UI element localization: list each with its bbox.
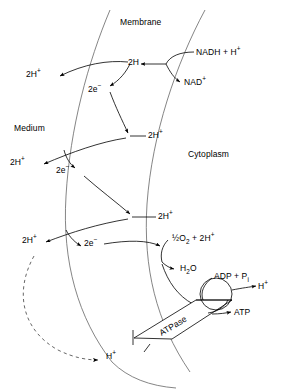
loop1-carrier-to-electrons <box>110 64 130 86</box>
water-product-label: H2O <box>180 264 197 273</box>
loop3-carrier-label: 2H+ <box>158 212 173 221</box>
oxygen-acceptor-label: ½O2 + 2H+ <box>172 234 214 243</box>
nadh-donor-label: NADH + H+ <box>196 48 241 57</box>
adp-inflow-arc <box>202 278 212 300</box>
loop1-carrier-to-protons <box>60 62 128 76</box>
loop2-carrier-to-protons <box>44 138 126 164</box>
proton-return-path <box>23 256 98 360</box>
membrane-tail-curve <box>112 362 176 388</box>
dashed-proton-circuit <box>23 256 98 360</box>
chemiosmosis-diagram: Membrane Medium Cytoplasm 2H 2H+ 2e− NAD… <box>0 0 283 391</box>
label-membrane: Membrane <box>120 18 161 27</box>
atpase-proton-out-label: H+ <box>258 282 268 291</box>
oxygen-branch <box>161 240 168 262</box>
loop-1-group <box>60 52 194 133</box>
loop1-electrons-label: 2e− <box>88 85 102 94</box>
arrow-to-atp <box>212 312 231 314</box>
nad-product-label: NAD+ <box>184 78 206 87</box>
loop2-electron-transfer <box>84 176 130 214</box>
loop3-protons-out-label: 2H+ <box>22 236 37 245</box>
loop2-protons-out-label: 2H+ <box>10 158 25 167</box>
loop3-electron-to-oxygen <box>104 241 160 246</box>
atp-product-label: ATP <box>234 308 250 317</box>
membrane-outer-curve <box>65 10 112 362</box>
label-medium: Medium <box>14 124 45 133</box>
loop1-to-nad <box>166 64 180 82</box>
loop1-electron-transfer <box>110 92 128 133</box>
loop-3-group <box>46 217 160 246</box>
loop1-carrier-label: 2H <box>128 58 139 67</box>
adp-substrate-label: ADP + Pi <box>214 272 249 281</box>
loop1-donor-branch <box>166 52 194 64</box>
loop2-electrons-label: 2e− <box>56 166 70 175</box>
atpase-cap-right <box>144 344 150 352</box>
loop3-electrons-label: 2e− <box>84 239 98 248</box>
arrow-to-proton-out <box>232 286 256 290</box>
label-cytoplasm: Cytoplasm <box>188 150 229 159</box>
loop2-carrier-label: 2H+ <box>148 131 163 140</box>
lower-membrane-tail <box>112 362 176 388</box>
loop1-protons-out-label: 2H+ <box>26 70 41 79</box>
loop-2-group <box>44 136 146 214</box>
atpase-proton-in-label: H+ <box>106 352 116 361</box>
diagram-canvas <box>0 0 283 391</box>
